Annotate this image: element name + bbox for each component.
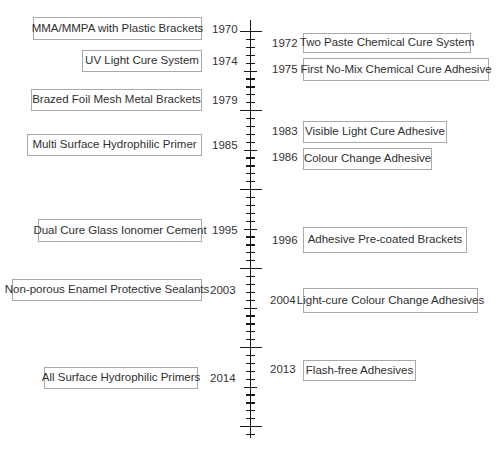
axis-tick (246, 47, 255, 48)
event-box-right: Light-cure Colour Change Adhesives (303, 288, 478, 313)
axis-tick (246, 142, 255, 143)
event-year-left: 2003 (210, 285, 236, 297)
axis-tick (240, 110, 262, 111)
axis-tick (246, 157, 255, 158)
axis-tick (246, 300, 255, 301)
event-year-right: 1996 (272, 235, 298, 247)
axis-tick (244, 387, 257, 388)
event-year-right: 1975 (272, 64, 298, 76)
event-box-left: Multi Surface Hydrophilic Primer (27, 134, 202, 156)
axis-tick (246, 418, 255, 419)
event-year-left: 1974 (212, 56, 238, 68)
axis-tick (246, 284, 255, 285)
axis-tick (246, 363, 255, 364)
axis-tick (246, 94, 255, 95)
axis-tick (246, 355, 255, 356)
event-box-left: Non-porous Enamel Protective Sealants (12, 279, 202, 301)
event-year-left: 1985 (212, 140, 238, 152)
axis-tick (246, 244, 255, 245)
axis-tick (246, 410, 255, 411)
axis-tick (246, 221, 255, 222)
axis-tick (246, 331, 255, 332)
axis-tick (246, 213, 255, 214)
axis-tick (246, 134, 255, 135)
event-box-left: UV Light Cure System (82, 50, 202, 72)
event-year-right: 1972 (272, 38, 298, 50)
axis-tick (246, 394, 255, 395)
axis-tick (246, 371, 255, 372)
axis-tick (246, 126, 255, 127)
axis-tick (244, 308, 257, 309)
axis-tick (246, 402, 255, 403)
event-year-left: 1979 (212, 95, 238, 107)
axis-tick (246, 339, 255, 340)
axis-tick (246, 55, 255, 56)
axis-tick (246, 434, 255, 435)
axis-tick (244, 150, 257, 151)
event-box-right: Two Paste Chemical Cure System (303, 33, 471, 53)
axis-tick (240, 189, 262, 190)
axis-tick (240, 426, 262, 427)
event-box-right: Flash-free Adhesives (303, 360, 416, 381)
axis-tick (246, 102, 255, 103)
axis-tick (246, 86, 255, 87)
axis-tick (240, 347, 262, 348)
axis-tick (244, 229, 257, 230)
axis-tick (246, 260, 255, 261)
axis-tick (240, 31, 262, 32)
axis-tick (246, 276, 255, 277)
event-box-left: Dual Cure Glass Ionomer Cement (38, 219, 202, 242)
axis-tick (246, 181, 255, 182)
event-year-left: 2014 (210, 373, 236, 385)
event-box-right: Visible Light Cure Adhesive (303, 121, 447, 143)
axis-tick (246, 236, 255, 237)
axis-tick (244, 71, 257, 72)
event-year-right: 1983 (272, 126, 298, 138)
event-box-right: Adhesive Pre-coated Brackets (303, 227, 467, 253)
axis-tick (246, 323, 255, 324)
event-box-right: Colour Change Adhesive (303, 148, 432, 170)
axis-tick (246, 252, 255, 253)
axis-tick (246, 78, 255, 79)
axis-tick (246, 39, 255, 40)
event-box-left: Brazed Foil Mesh Metal Brackets (31, 89, 202, 111)
axis-tick (246, 205, 255, 206)
event-year-right: 1986 (272, 152, 298, 164)
axis-tick (246, 315, 255, 316)
axis-tick (246, 173, 255, 174)
axis-tick (246, 292, 255, 293)
axis-tick (246, 63, 255, 64)
event-year-left: 1970 (212, 24, 238, 36)
axis-tick (240, 268, 262, 269)
axis-tick (246, 197, 255, 198)
axis-tick (246, 118, 255, 119)
event-box-left: All Surface Hydrophilic Primers (44, 367, 198, 389)
event-year-right: 2013 (270, 364, 296, 376)
event-box-right: First No-Mix Chemical Cure Adhesive (303, 58, 489, 81)
event-year-right: 2004 (270, 295, 296, 307)
event-box-left: MMA/MMPA with Plastic Brackets (33, 17, 202, 40)
axis-tick (246, 165, 255, 166)
axis-tick (246, 379, 255, 380)
event-year-left: 1995 (212, 225, 238, 237)
